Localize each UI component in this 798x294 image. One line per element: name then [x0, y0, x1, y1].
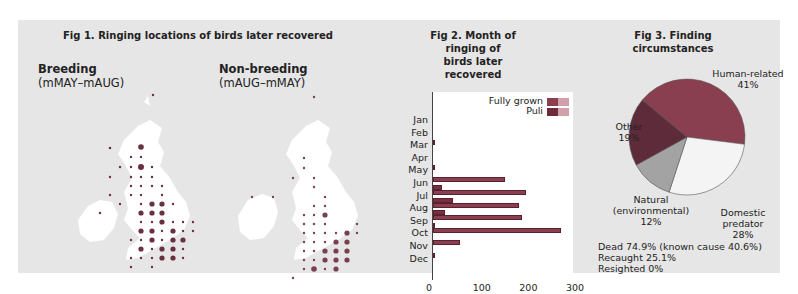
bar-chart-plot-area: Fully grown Puli [432, 92, 573, 280]
x-tick-label: 200 [519, 282, 537, 293]
nonbreeding-title: Non-breeding [219, 62, 308, 76]
fig1-title: Fig 1. Ringing locations of birds later … [18, 29, 378, 42]
pie-label-domestic: Domestic predator 28% [713, 207, 773, 240]
x-axis: 0100200300 [432, 282, 572, 294]
x-tick-label: 300 [566, 282, 584, 293]
month-label: Apr [412, 152, 428, 163]
nonbreeding-map [218, 82, 378, 282]
summary-dead: Dead 74.9% (known cause 40.6%) [598, 241, 762, 252]
month-label: Nov [409, 240, 428, 251]
x-tick-label: 100 [473, 282, 491, 293]
pie-label-other: Other 19% [611, 121, 647, 143]
month-label: Mar [410, 139, 428, 150]
month-label: Feb [411, 127, 428, 138]
fig3-title: Fig 3. Finding circumstances [603, 29, 743, 55]
x-tick-label: 0 [426, 282, 432, 293]
month-label: Sep [410, 215, 428, 226]
month-label: May [408, 164, 428, 175]
bar-chart-legend: Fully grown Puli [489, 96, 569, 116]
bar-fully-grown [433, 240, 460, 245]
month-label: Aug [409, 202, 428, 213]
month-label: Dec [410, 253, 428, 264]
bar-fully-grown [433, 140, 435, 145]
bar-fully-grown [433, 228, 561, 233]
legend-puli: Puli [489, 106, 569, 116]
month-label: Jun [413, 177, 428, 188]
bar-fully-grown [433, 165, 435, 170]
pie-label-human: Human-related 41% [708, 68, 788, 90]
breeding-title: Breeding [38, 62, 124, 76]
summary-recaught: Recaught 25.1% [598, 252, 762, 263]
summary-resighted: Resighted 0% [598, 263, 762, 274]
bar-fully-grown [433, 177, 505, 182]
pie-label-natural: Natural (environmental) 12% [606, 194, 696, 227]
figure-panel: Fig 1. Ringing locations of birds later … [18, 20, 780, 273]
bar-fully-grown [433, 190, 526, 195]
month-label: Jan [413, 114, 428, 125]
month-axis: JanFebMarAprMayJunJulAugSepOctNovDec [390, 92, 428, 280]
legend-puli-swatch [547, 108, 569, 116]
bar-fully-grown [433, 203, 519, 208]
breeding-map [40, 82, 200, 282]
bar-fully-grown [433, 253, 435, 258]
month-label: Oct [412, 227, 428, 238]
legend-fully-grown-swatch [547, 98, 569, 106]
bar-chart: Fully grown Puli JanFebMarAprMayJunJulAu… [390, 20, 570, 273]
month-label: Jul [417, 190, 428, 201]
recovery-summary: Dead 74.9% (known cause 40.6%) Recaught … [598, 241, 762, 274]
bar-fully-grown [433, 215, 522, 220]
